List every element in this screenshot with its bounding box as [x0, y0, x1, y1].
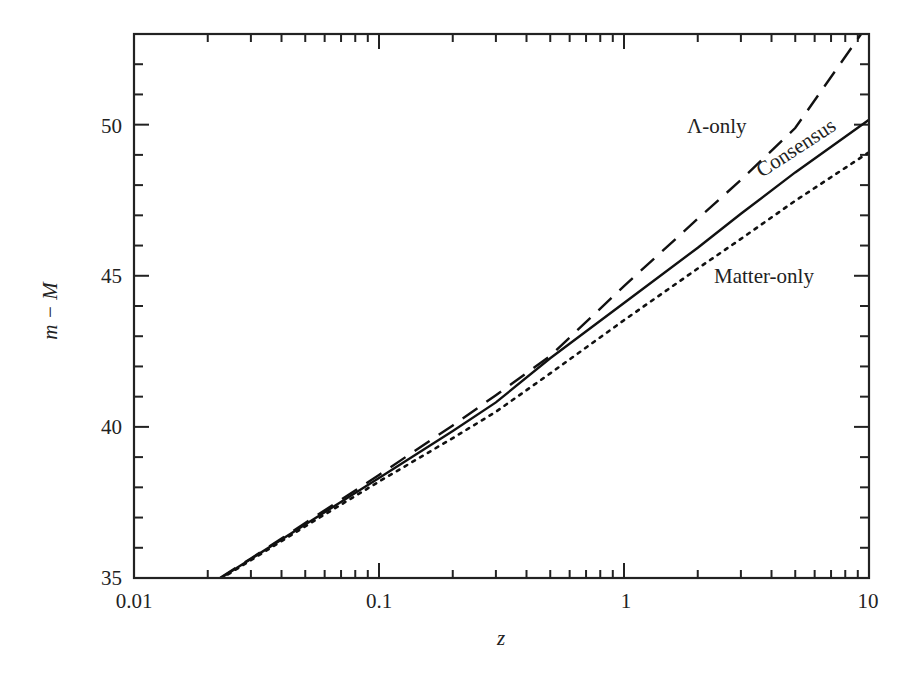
x-tick-label-2: 1 — [621, 589, 632, 613]
y-tick-label-0: 35 — [101, 566, 122, 590]
axis-ticks — [134, 34, 869, 578]
y-axis-label: m − M — [38, 281, 62, 340]
series-label-matter-only: Matter-only — [714, 264, 814, 288]
x-tick-label-1: 0.1 — [366, 589, 392, 613]
consensus-line — [220, 120, 869, 579]
lambda-only-line — [220, 23, 869, 578]
y-tick-label-1: 40 — [101, 415, 122, 439]
series-label-lambda-only: Λ-only — [687, 114, 747, 138]
distance-modulus-chart: 0.01 0.1 1 10 35 40 45 50 z m − M Λ-only… — [0, 0, 923, 676]
plot-frame — [134, 34, 869, 578]
x-tick-labels: 0.01 0.1 1 10 — [116, 589, 879, 613]
x-tick-label-3: 10 — [858, 589, 879, 613]
x-tick-label-0: 0.01 — [116, 589, 153, 613]
data-series — [220, 23, 869, 579]
matter-only-line — [220, 152, 869, 579]
y-tick-label-2: 45 — [101, 264, 122, 288]
x-axis-label: z — [496, 626, 505, 650]
y-tick-label-3: 50 — [101, 114, 122, 138]
y-tick-labels: 35 40 45 50 — [101, 114, 122, 590]
